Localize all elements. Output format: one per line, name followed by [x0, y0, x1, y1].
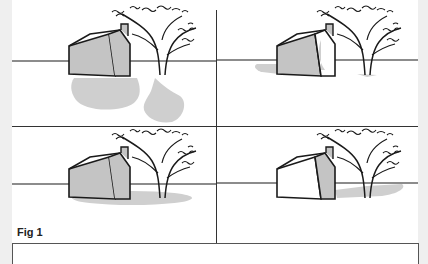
horizontal-divider — [12, 126, 418, 127]
panel-bottom-left — [12, 127, 216, 223]
caption-box — [12, 243, 419, 264]
house-shadow — [255, 64, 279, 74]
figure-label: Fig 1 — [17, 226, 43, 238]
tree-shadow — [357, 74, 377, 77]
panel-top-left — [12, 0, 216, 126]
ground-shadow — [335, 184, 403, 198]
panel-bottom-right — [217, 127, 418, 243]
house-shadow — [71, 78, 140, 110]
tree-shadow — [144, 78, 184, 122]
panel-top-right — [217, 0, 418, 126]
